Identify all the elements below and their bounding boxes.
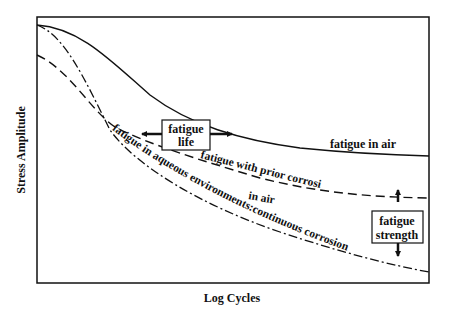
x-axis-label: Log Cycles <box>204 291 261 305</box>
fatigue-strength-annotation: fatigue strength <box>372 190 423 256</box>
fatigue-strength-label-1: fatigue <box>379 214 415 228</box>
fatigue-life-annotation: fatigue life <box>142 120 232 150</box>
fatigue-strength-label-2: strength <box>376 228 419 242</box>
fatigue-curves-diagram: fatigue life fatigue strength fatigue in… <box>0 0 453 309</box>
fatigue-life-label-1: fatigue <box>168 122 204 136</box>
y-axis-label: Stress Amplitude <box>14 106 28 194</box>
fatigue-life-label-2: life <box>178 135 195 149</box>
curve-prior-corrosion <box>37 55 429 198</box>
label-fatigue-in-air: fatigue in air <box>330 137 397 151</box>
